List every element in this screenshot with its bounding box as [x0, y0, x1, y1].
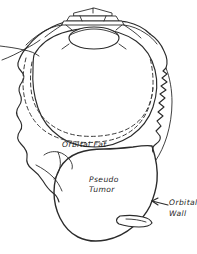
lens	[69, 27, 119, 49]
orbital-wall-left	[17, 46, 59, 202]
globe-dashed-outline	[23, 58, 153, 143]
label-pseudo-tumor-line1: Pseudo	[89, 175, 119, 184]
label-pseudo-tumor-line2: Tumor	[89, 185, 115, 194]
eyelids-and-cornea	[62, 8, 124, 25]
label-orbital-fat: Orbital Fat	[62, 140, 107, 149]
orbital-wall-leader-arrow	[152, 198, 168, 205]
label-orbital-wall-line2: Wall	[169, 209, 187, 218]
label-orbital-wall-line1: Orbital	[169, 198, 197, 207]
figure-root: Orbital Fat Pseudo Tumor Orbital Wall	[0, 0, 197, 254]
orbital-wall-right	[150, 34, 172, 160]
orbital-pseudotumor-illustration: Orbital Fat Pseudo Tumor Orbital Wall	[0, 0, 197, 254]
tumor-tongue	[117, 215, 153, 227]
